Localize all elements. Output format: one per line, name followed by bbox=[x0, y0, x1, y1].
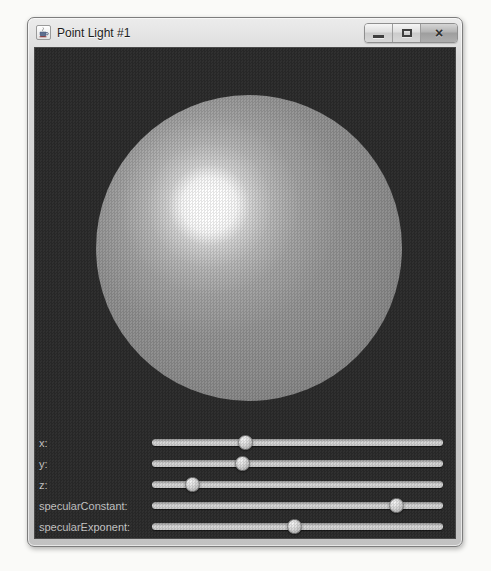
slider-z[interactable] bbox=[152, 474, 443, 495]
slider-row-y: y: bbox=[37, 453, 443, 474]
slider-label-specular-constant: specularConstant: bbox=[37, 500, 152, 512]
slider-y[interactable] bbox=[152, 453, 443, 474]
slider-row-x: x: bbox=[37, 432, 443, 453]
slider-label-x: x: bbox=[37, 437, 152, 449]
slider-track[interactable] bbox=[152, 439, 443, 446]
slider-thumb[interactable] bbox=[185, 477, 200, 492]
maximize-icon bbox=[402, 29, 412, 37]
slider-row-specular-constant: specularConstant: bbox=[37, 495, 443, 516]
maximize-button[interactable] bbox=[393, 24, 421, 42]
slider-thumb[interactable] bbox=[235, 456, 250, 471]
window-title: Point Light #1 bbox=[57, 26, 130, 40]
lit-sphere bbox=[96, 95, 402, 401]
slider-row-specular-exponent: specularExponent: bbox=[37, 516, 443, 537]
slider-x[interactable] bbox=[152, 432, 443, 453]
app-window: Point Light #1 × x: y: bbox=[27, 17, 463, 547]
slider-label-specular-exponent: specularExponent: bbox=[37, 521, 152, 533]
slider-specular-exponent[interactable] bbox=[152, 516, 443, 537]
slider-thumb[interactable] bbox=[287, 519, 302, 534]
slider-label-z: z: bbox=[37, 479, 152, 491]
slider-label-y: y: bbox=[37, 458, 152, 470]
slider-specular-constant[interactable] bbox=[152, 495, 443, 516]
slider-thumb[interactable] bbox=[389, 498, 404, 513]
minimize-button[interactable] bbox=[365, 24, 393, 42]
close-icon: × bbox=[435, 26, 443, 40]
close-button[interactable]: × bbox=[421, 24, 457, 42]
slider-row-z: z: bbox=[37, 474, 443, 495]
java-coffee-cup-icon bbox=[36, 25, 51, 40]
light-controls-panel: x: y: z: sp bbox=[37, 432, 443, 537]
slider-track[interactable] bbox=[152, 460, 443, 467]
scene-viewport: x: y: z: sp bbox=[34, 47, 456, 539]
slider-thumb[interactable] bbox=[238, 435, 253, 450]
window-controls: × bbox=[364, 23, 458, 43]
minimize-icon bbox=[373, 35, 384, 38]
